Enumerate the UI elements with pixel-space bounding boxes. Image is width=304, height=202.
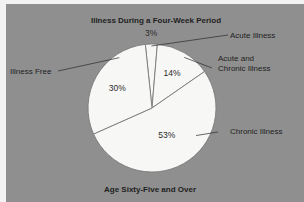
slices-group — [88, 44, 216, 172]
leader-line — [151, 35, 228, 46]
slice-value-label: 14% — [163, 68, 180, 78]
chart-title: Illness During a Four-Week Period — [91, 16, 221, 25]
slice-value-label: 53% — [158, 130, 175, 140]
slice-legend-label: Illness Free — [10, 67, 52, 76]
slice-legend-label: Acute Illness — [230, 31, 275, 40]
slice-legend-label: Chronic Illness — [230, 127, 282, 136]
slice-value-label: 3% — [145, 28, 158, 38]
chart-subtitle: Age Sixty-Five and Over — [104, 185, 196, 194]
slice-legend-label: Chronic Illness — [218, 64, 270, 73]
slice-legend-label: Acute and — [218, 54, 254, 63]
slice-value-label: 30% — [109, 83, 126, 93]
chart-panel: Illness During a Four-Week Period 3%Acut… — [6, 4, 304, 202]
pie-chart: Illness During a Four-Week Period 3%Acut… — [6, 4, 304, 202]
